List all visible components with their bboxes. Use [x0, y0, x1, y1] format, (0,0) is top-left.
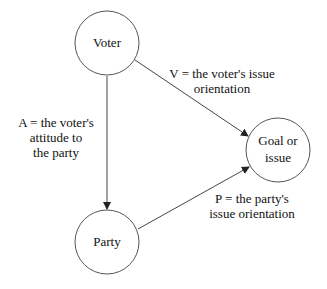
- node-goal: Goal or issue: [246, 118, 310, 182]
- edge-label-a-line3: the party: [33, 145, 79, 160]
- node-voter: Voter: [75, 11, 139, 75]
- node-goal-label-line2: issue: [265, 150, 291, 165]
- node-voter-label: Voter: [93, 35, 122, 50]
- edge-label-p-line1: P = the party's: [215, 191, 289, 206]
- node-party: Party: [75, 210, 139, 274]
- edge-label-a-line2: attitude to: [30, 130, 82, 145]
- balance-theory-diagram: Voter Party Goal or issue A = the voter'…: [0, 0, 327, 289]
- edge-label-p: P = the party's issue orientation: [209, 191, 295, 221]
- edge-label-a: A = the voter's attitude to the party: [18, 115, 94, 160]
- edge-label-v-line1: V = the voter's issue: [169, 66, 275, 81]
- edge-label-p-line2: issue orientation: [209, 206, 295, 221]
- edge-label-v: V = the voter's issue orientation: [169, 66, 275, 96]
- node-party-label: Party: [93, 234, 121, 249]
- edge-label-a-line1: A = the voter's: [18, 115, 94, 130]
- node-goal-label-line1: Goal or: [258, 133, 298, 148]
- edge-label-v-line2: orientation: [194, 81, 251, 96]
